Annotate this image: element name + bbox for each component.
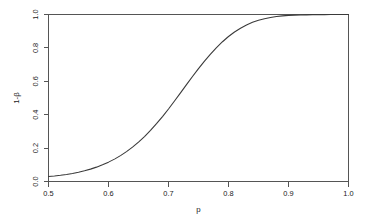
power-curve-chart: 0.5 0.6 0.7 0.8 0.9 1.0 0.0 0.2 0.4 0.6 … bbox=[0, 0, 366, 223]
x-tick-label-2: 0.7 bbox=[163, 189, 173, 198]
y-tick-label-2: 0.4 bbox=[31, 110, 40, 120]
x-tick-label-0: 0.5 bbox=[43, 189, 53, 198]
x-axis-tick-labels: 0.5 0.6 0.7 0.8 0.9 1.0 bbox=[43, 189, 353, 198]
plot-canvas: 0.5 0.6 0.7 0.8 0.9 1.0 0.0 0.2 0.4 0.6 … bbox=[0, 0, 366, 223]
x-tick-label-5: 1.0 bbox=[343, 189, 353, 198]
y-tick-label-4: 0.8 bbox=[31, 43, 40, 53]
y-tick-label-3: 0.6 bbox=[31, 76, 40, 86]
y-tick-label-5: 1.0 bbox=[31, 9, 40, 19]
plot-frame bbox=[49, 15, 349, 182]
x-axis-title: p bbox=[196, 205, 201, 214]
x-tick-label-1: 0.6 bbox=[103, 189, 113, 198]
x-axis-ticks bbox=[49, 182, 349, 187]
x-tick-label-4: 0.9 bbox=[283, 189, 293, 198]
y-axis-tick-labels: 0.0 0.2 0.4 0.6 0.8 1.0 bbox=[31, 9, 40, 186]
y-axis-ticks bbox=[44, 15, 49, 182]
x-tick-label-3: 0.8 bbox=[223, 189, 233, 198]
y-tick-label-0: 0.0 bbox=[31, 176, 40, 186]
y-axis-title: 1-β bbox=[12, 92, 21, 104]
power-curve-line bbox=[49, 15, 349, 177]
y-tick-label-1: 0.2 bbox=[31, 143, 40, 153]
